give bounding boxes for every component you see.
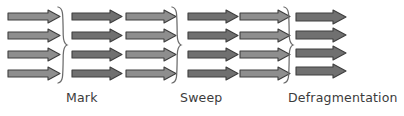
arrow-shape (188, 48, 238, 61)
arrow-shape (126, 67, 176, 80)
block-arrow-icon (188, 48, 238, 61)
arrow-shape (8, 48, 60, 61)
brace-defragmentation (282, 6, 294, 84)
block-arrow-icon (8, 29, 60, 42)
arrow-row (126, 10, 176, 23)
arrow-row (296, 28, 346, 42)
arrow-row (188, 48, 238, 61)
arrow-row (72, 10, 122, 23)
arrow-row (188, 67, 238, 80)
block-arrow-icon (72, 67, 122, 80)
block-arrow-icon (8, 67, 60, 80)
block-arrow-icon (296, 46, 346, 60)
arrow-row (296, 10, 346, 24)
brace-sweep (170, 6, 182, 84)
arrow-shape (72, 67, 122, 80)
arrow-shape (72, 10, 122, 23)
arrow-row (8, 48, 60, 61)
label-sweep: Sweep (180, 92, 222, 105)
arrow-shape (296, 28, 346, 42)
block-arrow-icon (72, 29, 122, 42)
block-arrow-icon (126, 48, 176, 61)
brace-path (172, 7, 181, 83)
arrow-row (72, 48, 122, 61)
brace-path (58, 7, 67, 83)
block-arrow-icon (188, 10, 238, 23)
curly-brace-icon (170, 6, 182, 84)
arrow-row (126, 29, 176, 42)
arrow-shape (126, 48, 176, 61)
arrow-row (72, 67, 122, 80)
arrow-shape (296, 10, 346, 24)
block-arrow-icon (126, 10, 176, 23)
label-mark: Mark (66, 92, 98, 105)
block-arrow-icon (296, 10, 346, 24)
arrow-shape (188, 29, 238, 42)
arrow-row (8, 29, 60, 42)
arrow-shape (296, 46, 346, 60)
brace-path (284, 7, 293, 83)
label-defragmentation: Defragmentation (288, 92, 398, 105)
arrow-shape (126, 10, 176, 23)
block-arrow-icon (296, 64, 346, 78)
mark-sweep-defragmentation-diagram: MarkSweepDefragmentation (0, 0, 404, 116)
arrow-shape (8, 67, 60, 80)
arrow-row (188, 29, 238, 42)
arrow-shape (188, 67, 238, 80)
block-arrow-icon (72, 10, 122, 23)
arrow-row (8, 10, 60, 23)
curly-brace-icon (282, 6, 294, 84)
block-arrow-icon (296, 28, 346, 42)
arrow-row (72, 29, 122, 42)
block-arrow-icon (72, 48, 122, 61)
arrow-shape (296, 64, 346, 78)
arrow-shape (8, 10, 60, 23)
arrow-shape (72, 48, 122, 61)
arrow-row (8, 67, 60, 80)
arrow-shape (8, 29, 60, 42)
block-arrow-icon (8, 10, 60, 23)
brace-mark (56, 6, 68, 84)
arrow-shape (72, 29, 122, 42)
arrow-row (126, 48, 176, 61)
arrow-shape (188, 10, 238, 23)
arrow-row (188, 10, 238, 23)
block-arrow-icon (126, 67, 176, 80)
block-arrow-icon (8, 48, 60, 61)
block-arrow-icon (188, 67, 238, 80)
curly-brace-icon (56, 6, 68, 84)
arrow-row (296, 46, 346, 60)
arrow-row (126, 67, 176, 80)
block-arrow-icon (188, 29, 238, 42)
arrow-shape (126, 29, 176, 42)
arrow-row (296, 64, 346, 78)
block-arrow-icon (126, 29, 176, 42)
